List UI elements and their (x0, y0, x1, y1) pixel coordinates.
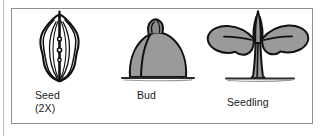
stage-label-bud: Bud (137, 89, 156, 101)
caption-seedling: Seedling (227, 96, 269, 109)
stage-seedling: Seedling (202, 9, 314, 125)
stage-label-seed: Seed (35, 89, 60, 101)
caption-seed: Seed (2X) (35, 89, 60, 114)
stage-label-seedling: Seedling (227, 96, 269, 108)
caption-bud: Bud (137, 89, 156, 102)
stage-seed: Seed (2X) (18, 9, 110, 125)
seed-icon (18, 9, 110, 87)
stage-bud: Bud (110, 9, 202, 125)
seedling-icon (202, 9, 314, 87)
bud-icon (110, 9, 202, 87)
figure-root: Seed (2X) (0, 0, 329, 136)
stage-sublabel-seed: (2X) (35, 102, 60, 115)
page-edge-rule (3, 0, 4, 136)
figure-frame: Seed (2X) (11, 8, 313, 124)
